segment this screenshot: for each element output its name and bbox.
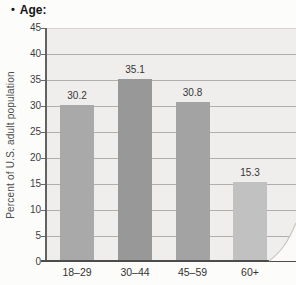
page-curl-artifact (0, 0, 296, 285)
scanned-chart-page: • Age: Percent of U.S. adult population … (0, 0, 296, 285)
